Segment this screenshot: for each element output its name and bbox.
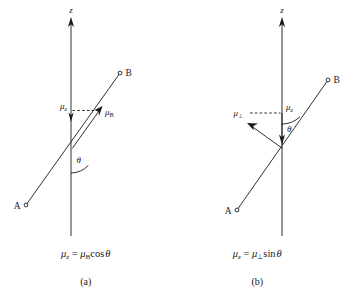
mu-vector-line-a (72, 111, 99, 149)
point-a-marker-b (235, 208, 239, 212)
theta-label-a: θ (77, 155, 82, 165)
formula-b-angle: θ (277, 248, 282, 259)
theta-arc-a (71, 166, 88, 174)
caption-letter-a: (a) (0, 276, 172, 287)
mu-perp-label-b: μ⊥ (232, 108, 243, 119)
formula-a-angle: θ (105, 248, 110, 259)
z-axis-label-a: z (68, 5, 73, 15)
panel-a-diagram: z A B μz μB θ (0, 0, 172, 240)
point-b-marker-a (118, 71, 122, 75)
formula-a: μz = μBcos θ (0, 248, 172, 261)
theta-arc-b (282, 117, 300, 124)
mu-perp-line-b (252, 127, 283, 149)
caption-letter-b: (b) (172, 276, 343, 287)
point-a-label-a: A (14, 201, 21, 211)
formula-a-function: cos (90, 248, 104, 259)
ab-line-b (237, 80, 328, 210)
mu-z-label-a: μz (59, 101, 68, 112)
physics-figure: z A B μz μB θ μz = (0, 0, 343, 303)
formula-b: μz = μ⊥sin θ (172, 248, 343, 261)
panel-a: z A B μz μB θ μz = (0, 0, 172, 303)
panel-b-diagram: z A B μ⊥ μz θ (172, 0, 343, 240)
point-a-label-b: A (224, 206, 231, 216)
mu-vector-label-a: μB (104, 107, 114, 118)
formula-b-equals: = (244, 248, 250, 259)
ab-line-a (26, 73, 120, 205)
formula-b-function: sin (263, 248, 275, 259)
mu-z-label-b: μz (285, 102, 294, 113)
point-b-marker-b (326, 78, 330, 82)
theta-label-b: θ (287, 124, 292, 134)
point-b-label-b: B (333, 75, 339, 85)
formula-b-lhs-subscript: z (238, 253, 241, 261)
point-b-label-a: B (126, 68, 132, 78)
panel-b: z A B μ⊥ μz θ μz (172, 0, 343, 303)
formula-a-lhs-subscript: z (66, 253, 69, 261)
z-axis-label-b: z (279, 5, 284, 15)
formula-a-equals: = (72, 248, 78, 259)
point-a-marker-a (24, 203, 28, 207)
